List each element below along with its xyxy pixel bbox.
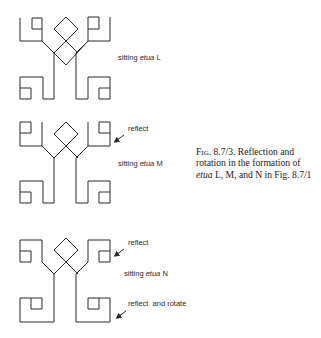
annotation-reflect: reflect (128, 124, 149, 133)
caption-term: etua (196, 169, 213, 180)
caption-text-2: L, M, and N in Fig. 8.7/1 (213, 169, 312, 180)
arrow-icon (118, 311, 126, 317)
figure-etua-m: reflect sitting etua M (20, 122, 163, 203)
stems (54, 274, 76, 322)
caption-fig-label: Fig. (196, 146, 211, 157)
caption-fig-number: 8.7/3. (211, 146, 235, 157)
figure-caption: Fig. 8.7/3. Reflection and rotation in t… (196, 146, 318, 180)
diamond-head (54, 17, 78, 41)
label-etua-n: sitting etua N (124, 269, 168, 278)
label-etua-l: sitting etua L (118, 53, 161, 62)
lower-right-leg (76, 298, 110, 322)
lower-left-leg (20, 77, 54, 99)
annotation-reflect: reflect (128, 238, 149, 247)
diamond-head (54, 238, 78, 262)
upper-right-arm (76, 240, 110, 274)
lower-right-leg (76, 181, 110, 203)
lower-right-leg (76, 77, 110, 99)
cross-lines (54, 250, 78, 274)
upper-left-arm (20, 122, 54, 158)
lower-left-leg (20, 298, 54, 322)
arrow-icon (116, 135, 124, 141)
upper-right-arm (76, 122, 110, 158)
lower-left-leg (20, 181, 54, 203)
figure-etua-n: reflect sitting etua N reflect and rotat… (20, 238, 186, 322)
label-etua-m: sitting etua M (118, 159, 163, 168)
figure-etua-l: sitting etua L (20, 17, 161, 99)
annotation-reflect-and-rotate: reflect and rotate (128, 299, 186, 308)
stems (54, 158, 76, 203)
upper-left-arm (20, 240, 54, 274)
arrow-icon (116, 249, 124, 255)
cross-lines (54, 134, 78, 158)
diamond-head (54, 122, 78, 146)
